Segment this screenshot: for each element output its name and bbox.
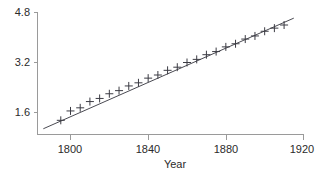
data-point-marker (212, 48, 220, 56)
x-tick-label-2: 1880 (214, 143, 238, 155)
data-point-marker (183, 59, 191, 67)
trend-line (43, 18, 293, 129)
trend-line-layer (43, 18, 293, 129)
data-point-marker (251, 32, 259, 40)
data-point-marker (96, 94, 104, 102)
y-axis-tick-labels: 4.8 3.2 1.6 (15, 6, 30, 118)
data-point-marker (115, 87, 123, 95)
data-point-marker (173, 63, 181, 71)
data-point-marker (154, 71, 162, 79)
scatter-plot-canvas: 4.8 3.2 1.6 1800 1840 1880 1920 Year (0, 0, 320, 178)
data-point-marker (261, 27, 269, 35)
data-point-marker (76, 104, 84, 112)
data-point-marker (67, 107, 75, 115)
data-point-marker (57, 116, 65, 124)
data-point-marker (125, 82, 133, 90)
y-axis-ticks (34, 13, 38, 113)
x-axis-ticks (71, 135, 304, 140)
x-tick-label-1: 1840 (136, 143, 160, 155)
data-point-marker (241, 35, 249, 43)
y-tick-label-0: 4.8 (15, 6, 30, 18)
y-tick-label-1: 3.2 (15, 56, 30, 68)
x-axis-tick-labels: 1800 1840 1880 1920 (58, 143, 314, 155)
data-point-marker (86, 98, 94, 106)
data-point-marker (232, 40, 240, 48)
data-point-marker (280, 21, 288, 29)
x-tick-label-3: 1920 (290, 143, 314, 155)
y-tick-label-2: 1.6 (15, 106, 30, 118)
data-point-marker (105, 90, 113, 98)
x-tick-label-0: 1800 (58, 143, 82, 155)
x-axis-title: Year (164, 158, 187, 170)
chart-figure: 4.8 3.2 1.6 1800 1840 1880 1920 Year (0, 0, 320, 178)
